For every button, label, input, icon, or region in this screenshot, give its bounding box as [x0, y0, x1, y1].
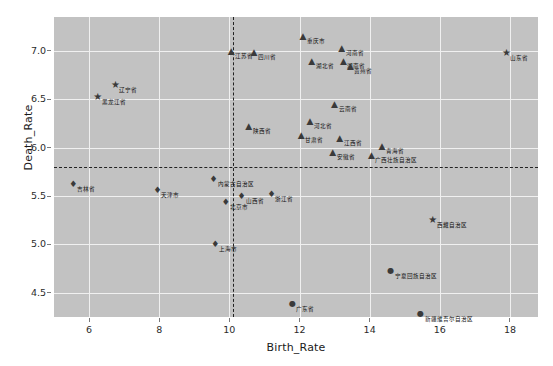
triangle-marker-icon: ▲ [245, 122, 252, 131]
triangle-marker-icon: ▲ [300, 32, 307, 41]
diamond-marker-icon: ♦ [267, 190, 275, 199]
y-tick-mark [47, 147, 51, 148]
data-point-label: 吉林省 [77, 185, 95, 193]
x-tick-mark [299, 318, 300, 322]
x-tick-label: 12 [280, 318, 320, 335]
circle-marker-icon: ● [417, 310, 424, 318]
data-point-label: 四川省 [258, 53, 276, 61]
x-tick-mark [159, 318, 160, 322]
triangle-marker-icon: ▲ [340, 56, 347, 65]
y-tick-label: 5.5 [0, 190, 46, 202]
triangle-marker-icon: ▲ [378, 141, 385, 150]
triangle-marker-icon: ▲ [298, 131, 305, 140]
x-tick-label: 16 [420, 318, 460, 335]
data-point-label: 河南省 [346, 49, 364, 57]
data-point-label: 江西省 [344, 139, 362, 147]
diamond-marker-icon: ♦ [210, 174, 218, 183]
data-point-label: 广东省 [296, 305, 314, 313]
gridline-horizontal [54, 51, 538, 52]
x-tick-label: 6 [69, 318, 109, 335]
x-tick-label: 10 [209, 318, 249, 335]
triangle-marker-icon: ▲ [329, 147, 336, 156]
data-point-label: 云南省 [339, 105, 357, 113]
data-point-label: 黑龙江省 [102, 98, 126, 106]
reference-line-vertical [233, 17, 234, 317]
gridline-horizontal [54, 148, 538, 149]
data-point-label: 辽宁省 [119, 86, 137, 94]
x-axis-title: Birth_Rate [54, 341, 538, 354]
triangle-marker-icon: ▲ [308, 56, 315, 65]
x-tick-mark [369, 318, 370, 322]
data-point-label: 内蒙古自治区 [218, 180, 254, 188]
triangle-marker-icon: ▲ [347, 62, 354, 71]
x-tick-label: 14 [350, 318, 390, 335]
data-point-label: 安徽省 [337, 153, 355, 161]
triangle-marker-icon: ▲ [331, 100, 338, 109]
diamond-marker-icon: ♦ [69, 180, 77, 189]
plot-panel: ★辽宁省★黑龙江省★山东省★西藏自治区▲江苏省▲四川省▲重庆市▲河南省▲湖北省▲… [54, 17, 538, 317]
data-point-label: 河北省 [314, 122, 332, 130]
x-tick-label: 8 [139, 318, 179, 335]
data-point-label: 重庆市 [307, 37, 325, 45]
x-tick-mark [229, 318, 230, 322]
y-tick-label: 6.5 [0, 93, 46, 105]
x-tick-mark [509, 318, 510, 322]
gridline-horizontal [54, 99, 538, 100]
y-tick-mark [47, 196, 51, 197]
y-tick-mark [47, 99, 51, 100]
data-point-label: 上海市 [219, 245, 237, 253]
data-point-label: 甘肃省 [305, 136, 323, 144]
data-point-label: 山东省 [510, 54, 528, 62]
diamond-marker-icon: ♦ [153, 186, 161, 195]
data-point-label: 北京市 [230, 203, 248, 211]
data-point-label: 宁夏回族自治区 [395, 272, 437, 280]
triangle-marker-icon: ▲ [368, 151, 375, 160]
x-tick-mark [89, 318, 90, 322]
diamond-marker-icon: ♦ [222, 197, 230, 206]
data-point-label: 天津市 [161, 191, 179, 199]
triangle-marker-icon: ▲ [336, 133, 343, 142]
data-point-label: 西藏自治区 [437, 221, 467, 229]
data-point-label: 山西省 [246, 197, 264, 205]
gridline-horizontal [54, 244, 538, 245]
diamond-marker-icon: ♦ [211, 240, 219, 249]
scatter-plot-figure: Death_Rate Birth_Rate ★辽宁省★黑龙江省★山东省★西藏自治… [0, 0, 553, 366]
circle-marker-icon: ● [387, 267, 394, 275]
triangle-marker-icon: ▲ [307, 116, 314, 125]
y-tick-mark [47, 50, 51, 51]
triangle-marker-icon: ▲ [228, 46, 235, 55]
data-point-label: 湖北省 [316, 62, 334, 70]
data-point-label: 陕西省 [253, 127, 271, 135]
y-tick-label: 5.0 [0, 238, 46, 250]
x-tick-label: 18 [490, 318, 530, 335]
x-tick-mark [439, 318, 440, 322]
data-point-label: 浙江省 [275, 195, 293, 203]
y-tick-label: 4.5 [0, 287, 46, 299]
y-tick-mark [47, 292, 51, 293]
circle-marker-icon: ● [289, 300, 296, 308]
data-point-label: 青海省 [386, 147, 404, 155]
triangle-marker-icon: ▲ [250, 47, 257, 56]
data-point-label: 贵州省 [354, 67, 372, 75]
y-tick-label: 6.0 [0, 142, 46, 154]
y-tick-label: 7.0 [0, 45, 46, 57]
gridline-horizontal [54, 196, 538, 197]
y-tick-mark [47, 244, 51, 245]
triangle-marker-icon: ▲ [338, 43, 345, 52]
diamond-marker-icon: ♦ [238, 192, 246, 201]
gridline-horizontal [54, 293, 538, 294]
reference-line-horizontal [54, 167, 538, 168]
data-point-label: 广西壮族自治区 [375, 156, 417, 164]
